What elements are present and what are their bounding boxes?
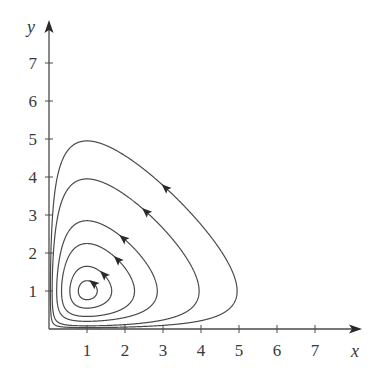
x-tick-label: 7 — [311, 341, 320, 360]
orbit-curve — [50, 141, 237, 328]
orbit-curve — [62, 244, 135, 317]
orbit-curve — [70, 266, 112, 308]
x-tick-label: 5 — [235, 341, 244, 360]
x-tick-label: 2 — [121, 341, 130, 360]
x-axis-label: x — [350, 341, 359, 361]
y-axis-label: y — [25, 17, 35, 37]
y-tick-label: 5 — [29, 130, 38, 149]
direction-arrow-icon — [89, 280, 99, 289]
x-axis-ticks: 1234567 — [83, 325, 320, 360]
x-tick-label: 3 — [159, 341, 168, 360]
y-tick-label: 2 — [29, 244, 38, 263]
y-tick-label: 1 — [29, 282, 38, 301]
orbit-curve — [57, 221, 158, 322]
direction-arrow-icon — [100, 271, 110, 281]
x-tick-label: 1 — [83, 341, 92, 360]
orbit-curves — [50, 141, 237, 328]
axes: 1234567 1234567 x y — [25, 17, 362, 361]
y-tick-label: 3 — [29, 206, 38, 225]
phase-portrait-chart: 1234567 1234567 x y — [0, 0, 392, 385]
y-tick-label: 7 — [29, 54, 38, 73]
x-tick-label: 6 — [273, 341, 282, 360]
y-tick-label: 6 — [29, 92, 38, 111]
x-tick-label: 4 — [197, 341, 206, 360]
y-tick-label: 4 — [29, 168, 38, 187]
